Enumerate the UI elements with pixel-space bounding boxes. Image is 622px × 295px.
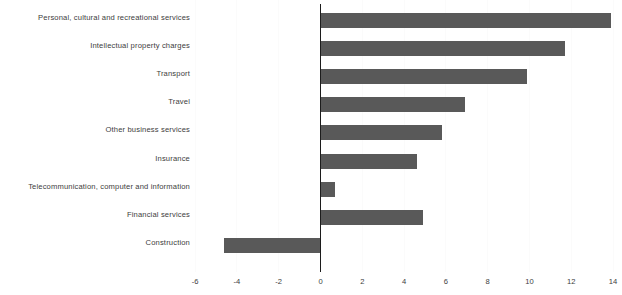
bar-row: Financial services xyxy=(0,204,622,232)
category-label: Travel xyxy=(168,97,190,106)
x-tick-label: 8 xyxy=(486,277,490,286)
x-tick-label: 4 xyxy=(402,277,406,286)
bar xyxy=(321,97,465,112)
bar xyxy=(321,210,423,225)
bar xyxy=(321,13,612,28)
bar xyxy=(321,41,566,56)
x-tick-label: 6 xyxy=(444,277,448,286)
category-label: Other business services xyxy=(105,125,190,134)
category-label: Transport xyxy=(156,69,190,78)
x-tick-label: 2 xyxy=(360,277,364,286)
x-tick-label: -2 xyxy=(275,277,282,286)
bar-row: Travel xyxy=(0,91,622,119)
category-label: Financial services xyxy=(127,210,190,219)
bar-row: Construction xyxy=(0,232,622,260)
category-label: Personal, cultural and recreational serv… xyxy=(38,13,190,22)
bar-row: Other business services xyxy=(0,119,622,147)
category-label: Construction xyxy=(146,238,190,247)
category-label: Intellectual property charges xyxy=(90,41,190,50)
bar xyxy=(321,154,417,169)
x-tick-label: 0 xyxy=(318,277,322,286)
bar-row: Telecommunication, computer and informat… xyxy=(0,176,622,204)
bar-row: Transport xyxy=(0,63,622,91)
bar xyxy=(224,238,320,253)
x-axis: -6-4-202468101214 xyxy=(0,272,622,295)
bar-chart: Personal, cultural and recreational serv… xyxy=(0,0,622,295)
category-label: Insurance xyxy=(155,154,190,163)
bar xyxy=(321,182,336,197)
bar-row: Intellectual property charges xyxy=(0,35,622,63)
x-tick-label: -6 xyxy=(192,277,199,286)
bar xyxy=(321,125,442,140)
x-tick-label: 12 xyxy=(567,277,575,286)
bar xyxy=(321,69,528,84)
category-label: Telecommunication, computer and informat… xyxy=(28,182,190,191)
bar-row: Personal, cultural and recreational serv… xyxy=(0,7,622,35)
x-tick-label: 10 xyxy=(525,277,533,286)
plot-area: Personal, cultural and recreational serv… xyxy=(0,0,622,272)
x-tick-label: 14 xyxy=(609,277,617,286)
bar-row: Insurance xyxy=(0,148,622,176)
x-tick-label: -4 xyxy=(234,277,241,286)
